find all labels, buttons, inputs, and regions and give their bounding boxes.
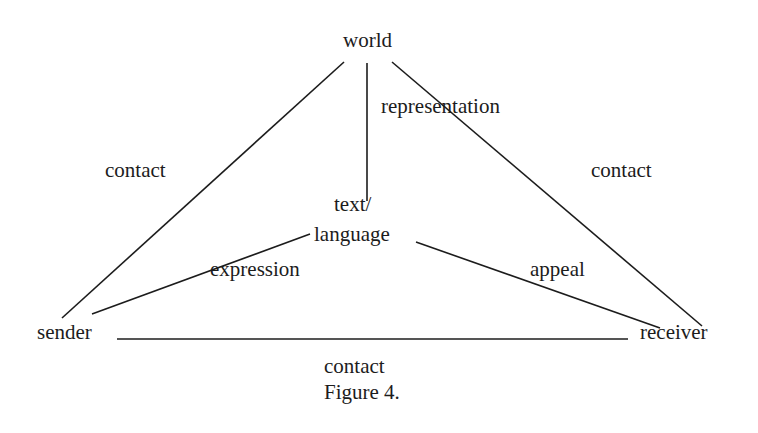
edge-label-contact-left: contact xyxy=(105,159,166,181)
node-world: world xyxy=(343,29,392,51)
edge-label-appeal: appeal xyxy=(530,258,585,280)
edge-label-contact-right: contact xyxy=(591,159,652,181)
edge-label-representation: representation xyxy=(381,95,500,117)
edge-world-sender xyxy=(62,62,344,318)
edge-text-receiver xyxy=(416,242,660,328)
node-text-line1: text/ xyxy=(334,193,371,215)
node-sender: sender xyxy=(37,321,92,343)
node-receiver: receiver xyxy=(640,321,708,343)
node-text-line2: language xyxy=(314,223,390,245)
edge-label-expression: expression xyxy=(210,258,300,280)
figure-caption: Figure 4. xyxy=(324,381,400,403)
edge-label-contact-bottom: contact xyxy=(324,355,385,377)
